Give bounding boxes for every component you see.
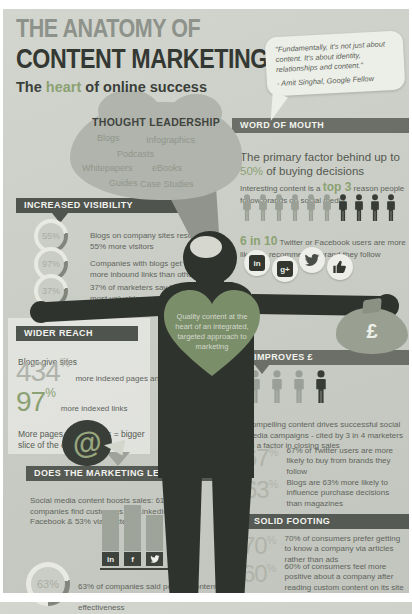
linkedin-icon: in bbox=[244, 250, 270, 276]
at-symbol: @ bbox=[70, 426, 103, 460]
thought-leadership-title: THOUGHT LEADERSHIP bbox=[70, 116, 242, 128]
brain-item-ebooks: eBooks bbox=[152, 163, 182, 173]
title-line1: THE ANATOMY OF bbox=[16, 14, 268, 43]
exposed-brain-icon bbox=[190, 236, 222, 258]
quote-attribution: - Amit Singhal, Google Fellow bbox=[277, 73, 395, 88]
thumbs-up-icon bbox=[327, 254, 353, 280]
subtitle: The heart of online success bbox=[16, 79, 309, 95]
brain-item-blogs: Blogs bbox=[97, 133, 120, 143]
brain-item-case-studies: Case Studies bbox=[140, 179, 194, 189]
brain-item-podcasts: Podcasts bbox=[117, 149, 154, 159]
photo-border-bottom bbox=[0, 593, 412, 602]
quote-bubble: "Fundamentally, it's not just about cont… bbox=[265, 30, 406, 96]
photo-border-top bbox=[0, 0, 412, 9]
brain-item-infographics: Infographics bbox=[146, 135, 195, 145]
quote-text: "Fundamentally, it's not just about cont… bbox=[275, 39, 394, 75]
thought-leadership-brain: THOUGHT LEADERSHIP Blogs Infographics Po… bbox=[70, 102, 242, 200]
photo-border-left bbox=[0, 0, 3, 602]
twitter-icon bbox=[299, 247, 325, 273]
heart-text: Quality content at the heart of an integ… bbox=[170, 312, 254, 353]
brain-item-guides: Guides bbox=[109, 178, 138, 188]
brain-item-whitepapers: Whitepapers bbox=[82, 163, 133, 173]
google-plus-icon: g+ bbox=[272, 256, 298, 282]
title-line2: CONTENT MARKETING bbox=[16, 44, 268, 75]
pie-slice-icon bbox=[103, 436, 125, 455]
subtitle-accent: heart bbox=[46, 79, 81, 95]
heart-graphic: Quality content at the heart of an integ… bbox=[160, 286, 264, 380]
pound-symbol: £ bbox=[366, 320, 377, 343]
